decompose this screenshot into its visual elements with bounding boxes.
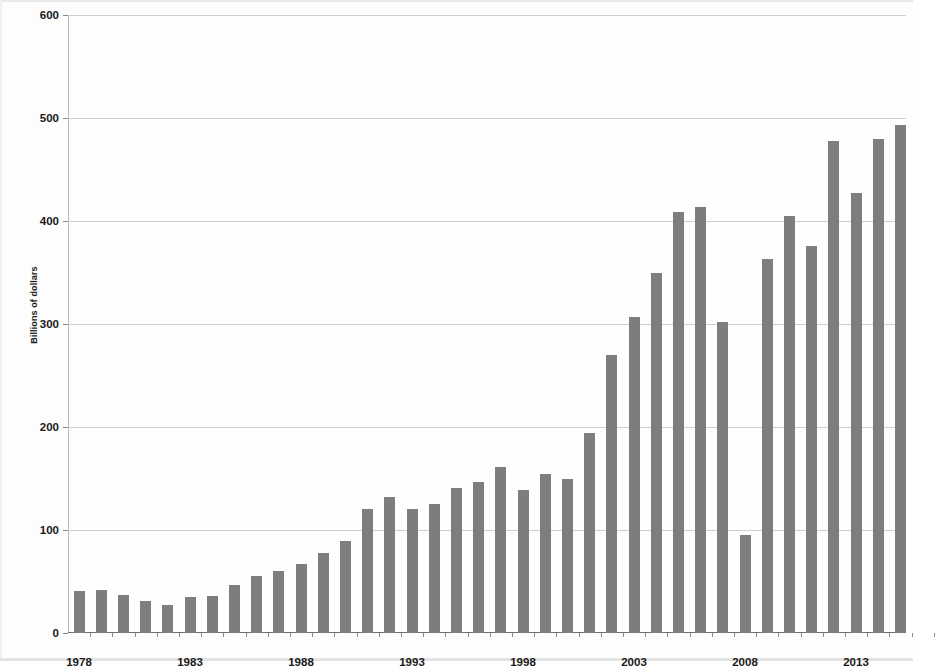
y-axis-title: Billions of dollars bbox=[29, 225, 39, 385]
bar bbox=[273, 571, 284, 633]
x-tick-mark bbox=[423, 633, 424, 637]
x-tick-mark bbox=[889, 633, 890, 637]
x-tick-mark bbox=[401, 633, 402, 637]
bar bbox=[495, 467, 506, 633]
x-tick-mark bbox=[623, 633, 624, 637]
y-tick-label: 100 bbox=[40, 524, 59, 536]
scan-edge-top bbox=[0, 0, 913, 2]
x-tick-mark bbox=[268, 633, 269, 637]
plot-area: 0100200300400500600 19781983198819931998… bbox=[68, 15, 906, 633]
x-tick-mark bbox=[556, 633, 557, 637]
gridline bbox=[68, 221, 906, 222]
bar bbox=[540, 474, 551, 633]
x-tick-label: 1978 bbox=[66, 656, 92, 668]
x-tick-label: 1988 bbox=[288, 656, 314, 668]
y-tick-mark bbox=[63, 633, 68, 634]
x-tick-mark bbox=[334, 633, 335, 637]
scan-edge-bottom bbox=[0, 658, 913, 661]
y-tick-mark bbox=[63, 427, 68, 428]
x-tick-mark bbox=[490, 633, 491, 637]
bar bbox=[118, 595, 129, 633]
x-tick-label: 1998 bbox=[510, 656, 536, 668]
gridline bbox=[68, 530, 906, 531]
x-tick-mark bbox=[90, 633, 91, 637]
y-tick-mark bbox=[63, 324, 68, 325]
bar bbox=[451, 488, 462, 633]
bar bbox=[651, 273, 662, 634]
bar bbox=[473, 482, 484, 633]
y-tick-label: 600 bbox=[40, 9, 59, 21]
x-tick-mark bbox=[312, 633, 313, 637]
y-tick-mark bbox=[63, 221, 68, 222]
x-tick-mark bbox=[357, 633, 358, 637]
x-tick-mark bbox=[712, 633, 713, 637]
y-tick-label: 300 bbox=[40, 318, 59, 330]
x-tick-mark bbox=[601, 633, 602, 637]
y-tick-label: 400 bbox=[40, 215, 59, 227]
x-tick-mark bbox=[734, 633, 735, 637]
bar bbox=[895, 125, 906, 633]
x-tick-mark bbox=[690, 633, 691, 637]
bar bbox=[873, 139, 884, 633]
bar bbox=[318, 553, 329, 633]
bar bbox=[740, 535, 751, 633]
bar bbox=[717, 322, 728, 633]
x-tick-mark bbox=[645, 633, 646, 637]
bar bbox=[695, 207, 706, 633]
bar bbox=[629, 317, 640, 633]
x-tick-mark bbox=[157, 633, 158, 637]
x-tick-mark bbox=[823, 633, 824, 637]
bar bbox=[162, 605, 173, 633]
bar bbox=[851, 193, 862, 633]
gridline bbox=[68, 15, 906, 16]
bar bbox=[762, 259, 773, 633]
bar bbox=[296, 564, 307, 633]
x-tick-mark bbox=[912, 633, 913, 637]
x-tick-mark bbox=[379, 633, 380, 637]
bar bbox=[185, 597, 196, 633]
x-tick-mark bbox=[135, 633, 136, 637]
x-tick-label: 1983 bbox=[177, 656, 203, 668]
y-tick-label: 500 bbox=[40, 112, 59, 124]
x-tick-mark bbox=[801, 633, 802, 637]
bar bbox=[207, 596, 218, 633]
bar bbox=[518, 490, 529, 633]
bar bbox=[96, 590, 107, 633]
x-tick-label: 2003 bbox=[621, 656, 647, 668]
x-tick-mark bbox=[756, 633, 757, 637]
x-tick-mark bbox=[667, 633, 668, 637]
bar bbox=[673, 212, 684, 633]
bar bbox=[828, 141, 839, 633]
y-tick-mark bbox=[63, 530, 68, 531]
x-tick-mark bbox=[112, 633, 113, 637]
gridline bbox=[68, 324, 906, 325]
bar bbox=[251, 576, 262, 633]
y-tick-label: 0 bbox=[53, 627, 59, 639]
bar bbox=[562, 479, 573, 634]
scan-edge-left bbox=[0, 0, 2, 661]
x-tick-mark bbox=[179, 633, 180, 637]
bar bbox=[340, 541, 351, 633]
y-tick-mark bbox=[63, 15, 68, 16]
y-tick-mark bbox=[63, 118, 68, 119]
x-tick-mark bbox=[512, 633, 513, 637]
x-tick-mark bbox=[468, 633, 469, 637]
bar bbox=[429, 504, 440, 633]
x-tick-label: 1993 bbox=[399, 656, 425, 668]
bar bbox=[806, 246, 817, 633]
x-tick-mark bbox=[778, 633, 779, 637]
bar bbox=[384, 497, 395, 633]
x-tick-mark bbox=[845, 633, 846, 637]
x-tick-mark bbox=[290, 633, 291, 637]
y-tick-label: 200 bbox=[40, 421, 59, 433]
x-tick-mark bbox=[445, 633, 446, 637]
x-tick-mark bbox=[534, 633, 535, 637]
gridline bbox=[68, 427, 906, 428]
bar bbox=[140, 601, 151, 633]
bar bbox=[606, 355, 617, 633]
bar bbox=[784, 216, 795, 633]
x-tick-mark bbox=[246, 633, 247, 637]
x-tick-mark bbox=[579, 633, 580, 637]
bar bbox=[74, 591, 85, 633]
x-tick-label: 2008 bbox=[732, 656, 758, 668]
